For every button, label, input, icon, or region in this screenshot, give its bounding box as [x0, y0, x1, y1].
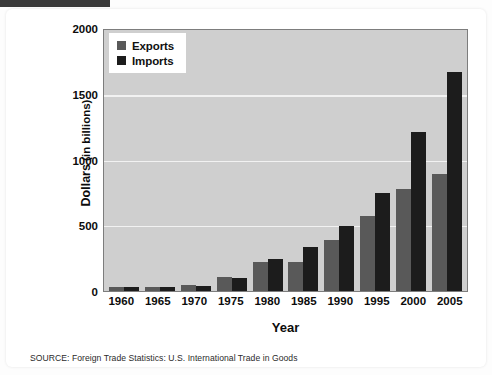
bar-group [286, 30, 322, 291]
x-tick-1975: 1975 [213, 295, 250, 313]
x-tick-2005: 2005 [432, 295, 469, 313]
bar-exports-1980 [253, 262, 268, 291]
bar-group [250, 30, 286, 291]
bar-exports-1960 [109, 287, 124, 291]
x-tick-1980: 1980 [249, 295, 286, 313]
x-axis-title: Year [103, 320, 468, 335]
bar-imports-1980 [268, 259, 283, 291]
bar-exports-1995 [360, 216, 375, 291]
bar-exports-1965 [145, 287, 160, 291]
legend-item-imports: Imports [117, 53, 174, 68]
bar-imports-1990 [339, 226, 354, 291]
source-note: SOURCE: Foreign Trade Statistics: U.S. I… [30, 353, 298, 363]
bar-imports-1970 [196, 286, 211, 291]
bar-group [393, 30, 429, 291]
bar-imports-1960 [124, 287, 139, 291]
header-band [0, 0, 110, 7]
legend-swatch-icon-exports [117, 41, 126, 50]
bar-imports-2000 [411, 132, 426, 291]
y-tick-2000: 2000 [50, 23, 98, 35]
bar-exports-1970 [181, 285, 196, 291]
legend-item-exports: Exports [117, 38, 174, 53]
x-tick-1965: 1965 [140, 295, 177, 313]
x-axis: 1960196519701975198019851990199520002005 [103, 295, 468, 313]
bar-imports-1985 [303, 247, 318, 291]
x-tick-2000: 2000 [395, 295, 432, 313]
x-tick-1960: 1960 [103, 295, 140, 313]
legend-swatch-icon-imports [117, 56, 126, 65]
y-axis-title-main: Dollars [79, 164, 93, 206]
bar-group [357, 30, 393, 291]
bar-imports-2005 [447, 72, 462, 291]
bar-exports-1975 [217, 277, 232, 291]
page-root: 2000 1500 1000 500 0 Dollars (in billion… [0, 0, 492, 375]
y-axis-title-unit: (in billions) [80, 99, 92, 164]
x-tick-1985: 1985 [286, 295, 323, 313]
bar-group [429, 30, 465, 291]
y-tick-0: 0 [50, 286, 98, 298]
bar-group [321, 30, 357, 291]
x-tick-1970: 1970 [176, 295, 213, 313]
x-tick-1995: 1995 [359, 295, 396, 313]
bar-exports-2000 [396, 189, 411, 291]
bar-exports-1990 [324, 240, 339, 291]
x-tick-1990: 1990 [322, 295, 359, 313]
bar-exports-2005 [432, 174, 447, 291]
bar-exports-1985 [288, 262, 303, 291]
chart-card: 2000 1500 1000 500 0 Dollars (in billion… [6, 9, 486, 367]
chart-legend: Exports Imports [109, 33, 186, 73]
bar-imports-1995 [375, 193, 390, 291]
bar-imports-1965 [160, 287, 175, 291]
y-axis-title: Dollars (in billions) [79, 58, 93, 248]
bar-group [214, 30, 250, 291]
y-axis: 2000 1500 1000 500 0 Dollars (in billion… [46, 29, 98, 292]
legend-label-exports: Exports [132, 40, 174, 52]
bar-imports-1975 [232, 278, 247, 291]
legend-label-imports: Imports [132, 55, 173, 67]
